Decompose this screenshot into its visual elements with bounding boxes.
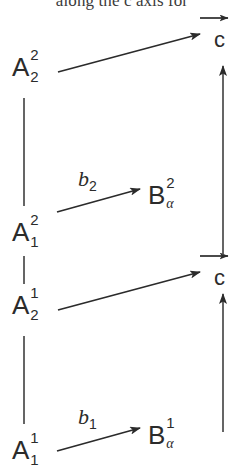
node-scripts: 22: [30, 51, 38, 83]
arrow-label-base: b: [78, 166, 89, 191]
arrow-label-subscript: 2: [89, 178, 97, 194]
arrow-label-subscript: 1: [89, 416, 97, 432]
node-superscript: 2: [30, 47, 38, 63]
arrow-b2-a12-to-balpha2: [57, 189, 140, 212]
node-subscript: 1: [30, 452, 38, 468]
node-superscript: 1: [166, 415, 174, 431]
node-subscript: 2: [30, 69, 38, 85]
target-label-c-top: c: [214, 27, 225, 53]
arrow-a21-to-c-bottom: [58, 272, 200, 310]
node-superscript: 2: [30, 212, 38, 228]
node-label-B-alpha-2: B2α: [148, 180, 175, 211]
node-base-letter: B: [148, 180, 165, 211]
node-subscript-alpha: α: [166, 197, 174, 212]
arrow-label-b1: b1: [78, 404, 97, 430]
node-superscript: 1: [30, 285, 38, 301]
diagram-page: along the c axis for: [0, 0, 244, 473]
node-base-letter: A: [12, 290, 29, 321]
target-label-c-bottom: c: [214, 265, 225, 291]
node-superscript: 1: [30, 430, 38, 446]
node-base-letter: A: [12, 52, 29, 83]
node-scripts: 1α: [166, 419, 174, 449]
arrow-label-base: b: [78, 404, 89, 429]
node-subscript-alpha: α: [166, 437, 174, 452]
arrow-label-b2: b2: [78, 166, 97, 192]
arrow-b1-a11-to-balpha1: [57, 428, 140, 451]
node-subscript: 2: [30, 307, 38, 323]
node-superscript: 2: [166, 175, 174, 191]
node-scripts: 2α: [166, 179, 174, 209]
node-base-letter: A: [12, 435, 29, 466]
node-scripts: 21: [30, 216, 38, 248]
node-subscript: 1: [30, 234, 38, 250]
node-scripts: 12: [30, 289, 38, 321]
node-label-A-1-1: A11: [12, 435, 39, 467]
node-base-letter: A: [12, 217, 29, 248]
node-base-letter: B: [148, 420, 165, 451]
node-label-A-2-1: A12: [12, 290, 39, 322]
node-label-A-1-2: A21: [12, 217, 39, 249]
node-label-A-2-2: A22: [12, 52, 39, 84]
arrow-a22-to-c-top: [58, 34, 200, 72]
node-scripts: 11: [30, 434, 38, 466]
node-label-B-alpha-1: B1α: [148, 420, 175, 451]
